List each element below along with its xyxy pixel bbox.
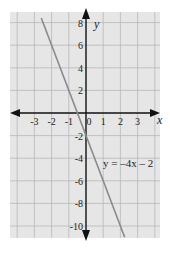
x-tick-label: -2 — [47, 116, 55, 127]
y-tick-label: -6 — [75, 176, 83, 187]
y-tick-label: -10 — [70, 221, 83, 232]
y-tick-label: -4 — [75, 153, 83, 164]
x-tick-label: 0 — [87, 116, 92, 127]
y-tick-label: 4 — [78, 63, 83, 74]
equation-label: y = –4x – 2 — [103, 157, 153, 169]
y-tick-label: 2 — [78, 85, 83, 96]
x-tick-label: 3 — [135, 116, 140, 127]
x-axis-label: x — [156, 113, 163, 127]
y-tick-label: -8 — [75, 198, 83, 209]
y-axis-label: y — [93, 17, 100, 31]
x-tick-label: 2 — [118, 116, 123, 127]
y-tick-label: 8 — [78, 18, 83, 29]
y-tick-label: 6 — [78, 40, 83, 51]
graph: -3-2-101238642-2-4-6-8-10 x y y = –4x – … — [0, 0, 170, 256]
x-tick-label: -1 — [65, 116, 73, 127]
x-tick-label: 1 — [101, 116, 106, 127]
x-tick-label: -3 — [30, 116, 38, 127]
y-tick-label: -2 — [75, 131, 83, 142]
